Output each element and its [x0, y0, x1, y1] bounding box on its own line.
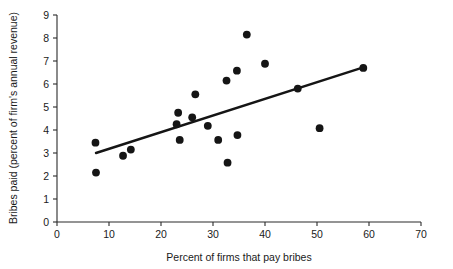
y-tick-label: 6 [43, 78, 49, 90]
chart-canvas: 0102030405060700123456789 Percent of fir… [0, 0, 453, 269]
tick-marks [53, 15, 421, 226]
data-point-marker [174, 109, 182, 117]
data-point-marker [233, 67, 241, 75]
data-point-marker [188, 113, 196, 121]
data-point-marker [176, 136, 184, 144]
x-tick-label: 0 [54, 228, 60, 240]
data-point-marker [359, 64, 367, 72]
y-tick-label: 9 [43, 9, 49, 21]
y-tick-label: 0 [43, 216, 49, 228]
data-point-marker [223, 77, 231, 85]
x-tick-label: 70 [415, 228, 427, 240]
x-tick-label: 40 [259, 228, 271, 240]
y-tick-label: 1 [43, 193, 49, 205]
y-tick-label: 8 [43, 32, 49, 44]
x-tick-label: 10 [103, 228, 115, 240]
x-axis-title: Percent of firms that pay bribes [166, 251, 311, 263]
y-tick-label: 4 [43, 124, 49, 136]
data-point-marker [92, 169, 100, 177]
x-tick-label: 30 [207, 228, 219, 240]
data-point-marker [127, 146, 135, 154]
data-point-marker [119, 152, 127, 160]
axes [57, 15, 421, 222]
x-tick-label: 50 [311, 228, 323, 240]
x-tick-label: 60 [363, 228, 375, 240]
data-point-marker [261, 60, 269, 68]
data-point-marker [92, 139, 100, 147]
y-axis-title: Bribes paid (percent of firm's annual re… [7, 12, 19, 224]
y-tick-label: 3 [43, 147, 49, 159]
data-point-marker [191, 90, 199, 98]
scatter-plot-figure: 0102030405060700123456789 Percent of fir… [0, 0, 453, 269]
tick-labels: 0102030405060700123456789 [43, 9, 427, 240]
data-point-marker [204, 122, 212, 130]
data-point-marker [173, 120, 181, 128]
y-tick-label: 7 [43, 55, 49, 67]
data-point-marker [316, 124, 324, 132]
data-points [92, 31, 368, 177]
data-point-marker [243, 31, 251, 39]
y-tick-label: 2 [43, 170, 49, 182]
x-tick-label: 20 [155, 228, 167, 240]
y-tick-label: 5 [43, 101, 49, 113]
data-point-marker [234, 131, 242, 139]
data-point-marker [294, 85, 302, 93]
data-point-marker [214, 136, 222, 144]
data-point-marker [224, 159, 232, 167]
